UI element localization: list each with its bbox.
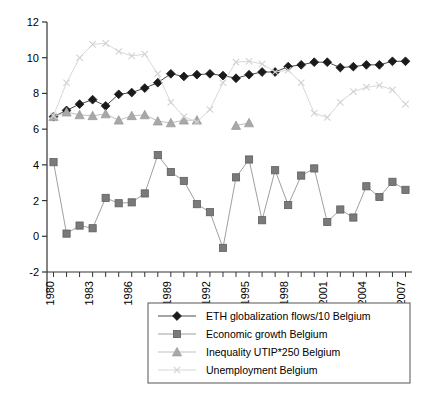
square-marker-icon	[50, 159, 57, 166]
square-marker-icon	[154, 151, 161, 158]
x-marker-icon	[337, 99, 343, 105]
axes-group: -202468101219801983198619891992199519982…	[27, 16, 412, 305]
y-tick-label: 8	[33, 87, 39, 99]
square-marker-icon	[219, 244, 226, 251]
legend-label: ETH globalization flows/10 Belgium	[206, 310, 371, 322]
diamond-marker-icon	[362, 60, 371, 69]
x-marker-icon	[115, 48, 121, 54]
legend-label: Economic growth Belgium	[206, 328, 328, 340]
diamond-marker-icon	[166, 69, 175, 78]
square-marker-icon	[350, 214, 357, 221]
legend-label: Unemployment Belgium	[206, 364, 318, 376]
square-marker-icon	[173, 330, 180, 337]
y-tick-label: -2	[29, 266, 39, 278]
diamond-marker-icon	[401, 57, 410, 66]
diamond-marker-icon	[75, 100, 84, 109]
y-tick-label: 6	[33, 123, 39, 135]
x-marker-icon	[207, 106, 213, 112]
x-tick-label: 2001	[317, 281, 329, 305]
belgium-globalization-chart: -202468101219801983198619891992199519982…	[0, 0, 421, 407]
diamond-marker-icon	[388, 57, 397, 66]
diamond-marker-icon	[349, 62, 358, 71]
square-marker-icon	[285, 201, 292, 208]
y-tick-label: 4	[33, 159, 39, 171]
diamond-marker-icon	[232, 74, 241, 83]
series-2	[49, 108, 254, 130]
x-marker-icon	[63, 80, 69, 86]
legend: ETH globalization flows/10 BelgiumEconom…	[148, 303, 410, 383]
square-marker-icon	[363, 183, 370, 190]
square-marker-icon	[128, 199, 135, 206]
triangle-marker-icon	[114, 116, 123, 125]
square-marker-icon	[167, 168, 174, 175]
x-marker-icon	[324, 114, 330, 120]
square-marker-icon	[76, 222, 83, 229]
series-line	[54, 112, 197, 123]
x-tick-label: 1989	[161, 281, 173, 305]
triangle-marker-icon	[101, 109, 110, 118]
x-tick-label: 1998	[278, 281, 290, 305]
diamond-marker-icon	[88, 95, 97, 104]
diamond-marker-icon	[127, 88, 136, 97]
y-tick-label: 2	[33, 195, 39, 207]
square-marker-icon	[102, 194, 109, 201]
x-tick-label: 1980	[44, 281, 56, 305]
x-tick-label: 1992	[200, 281, 212, 305]
legend-label: Inequality UTIP*250 Belgium	[206, 346, 340, 358]
triangle-marker-icon	[153, 117, 162, 126]
square-marker-icon	[298, 172, 305, 179]
x-marker-icon	[155, 71, 161, 77]
series-1	[50, 151, 409, 251]
square-marker-icon	[324, 218, 331, 225]
square-marker-icon	[272, 167, 279, 174]
x-tick-label: 1995	[239, 281, 251, 305]
x-marker-icon	[168, 99, 174, 105]
square-marker-icon	[193, 201, 200, 208]
square-marker-icon	[258, 217, 265, 224]
square-marker-icon	[180, 177, 187, 184]
x-marker-icon	[389, 87, 395, 93]
diamond-marker-icon	[179, 72, 188, 81]
diamond-marker-icon	[323, 58, 332, 67]
x-marker-icon	[298, 80, 304, 86]
x-tick-label: 1986	[122, 281, 134, 305]
x-marker-icon	[76, 55, 82, 61]
x-tick-label: 1983	[83, 281, 95, 305]
square-marker-icon	[63, 230, 70, 237]
square-marker-icon	[376, 193, 383, 200]
square-marker-icon	[206, 209, 213, 216]
square-marker-icon	[245, 156, 252, 163]
diamond-marker-icon	[336, 63, 345, 72]
square-marker-icon	[311, 165, 318, 172]
diamond-marker-icon	[206, 69, 215, 78]
x-marker-icon	[350, 88, 356, 94]
y-tick-label: 10	[27, 52, 39, 64]
y-tick-label: 12	[27, 16, 39, 28]
square-marker-icon	[115, 200, 122, 207]
diamond-marker-icon	[193, 70, 202, 79]
x-marker-icon	[402, 101, 408, 107]
chart-figure: -202468101219801983198619891992199519982…	[0, 0, 421, 407]
triangle-marker-icon	[140, 110, 149, 119]
diamond-marker-icon	[297, 60, 306, 69]
x-marker-icon	[311, 110, 317, 116]
square-marker-icon	[402, 186, 409, 193]
square-marker-icon	[141, 190, 148, 197]
diamond-marker-icon	[245, 70, 254, 79]
diamond-marker-icon	[310, 58, 319, 67]
diamond-marker-icon	[375, 60, 384, 69]
triangle-marker-icon	[244, 118, 253, 127]
x-tick-label: 2007	[395, 281, 407, 305]
square-marker-icon	[232, 174, 239, 181]
diamond-marker-icon	[258, 68, 267, 77]
square-marker-icon	[337, 206, 344, 213]
square-marker-icon	[89, 225, 96, 232]
x-tick-label: 2004	[356, 281, 368, 305]
square-marker-icon	[389, 178, 396, 185]
diamond-marker-icon	[140, 84, 149, 93]
y-tick-label: 0	[33, 230, 39, 242]
